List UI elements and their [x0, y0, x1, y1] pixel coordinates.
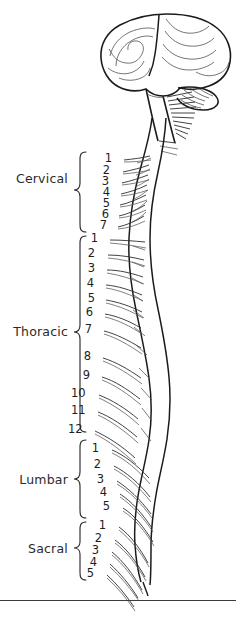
segment-number-sacral-1: 1: [92, 518, 106, 532]
anatomy-drawing: [0, 0, 236, 617]
segment-number-lumbar-4: 4: [93, 485, 107, 499]
spinal-cord-diagram: Cervical Thoracic Lumbar Sacral 12345671…: [0, 0, 236, 617]
segment-number-thoracic-6: 6: [79, 305, 93, 319]
segment-number-thoracic-7: 7: [78, 322, 92, 336]
region-label-cervical: Cervical: [8, 171, 68, 186]
parietal-gyrus-1: [166, 19, 209, 33]
cerebellum-folia-3: [181, 100, 201, 108]
filum-terminale: [143, 582, 148, 596]
frontal-gyrus-1: [110, 28, 155, 56]
segment-number-sacral-5: 5: [80, 566, 94, 580]
segment-number-thoracic-5: 5: [81, 291, 95, 305]
segment-number-thoracic-3: 3: [81, 261, 95, 275]
region-label-thoracic: Thoracic: [6, 324, 68, 339]
central-sulcus: [149, 15, 159, 76]
segment-number-thoracic-1: 1: [84, 231, 98, 245]
sacral-nerve-roots: [107, 527, 149, 611]
footer-divider: [0, 600, 236, 601]
segment-number-thoracic-11: 11: [71, 403, 85, 417]
cerebrum-outline: [101, 14, 231, 96]
region-label-lumbar: Lumbar: [8, 472, 68, 487]
region-braces: [74, 152, 86, 580]
thoracic-nerve-roots: [95, 240, 152, 464]
segment-number-lumbar-2: 2: [87, 457, 101, 471]
segment-number-thoracic-9: 9: [76, 368, 90, 382]
segment-number-thoracic-8: 8: [77, 349, 91, 363]
segment-number-thoracic-12: 12: [68, 422, 82, 436]
segment-number-cervical-7: 7: [93, 218, 107, 232]
segment-number-thoracic-4: 4: [80, 276, 94, 290]
brace-cervical: [74, 152, 86, 232]
segment-number-lumbar-1: 1: [85, 441, 99, 455]
segment-number-thoracic-10: 10: [71, 386, 85, 400]
lumbar-nerve-roots: [112, 450, 154, 546]
segment-number-thoracic-2: 2: [81, 246, 95, 260]
segment-number-lumbar-5: 5: [96, 499, 110, 513]
region-label-sacral: Sacral: [8, 541, 68, 556]
spinal-cord-right-border: [150, 118, 170, 585]
segment-number-lumbar-3: 3: [90, 472, 104, 486]
